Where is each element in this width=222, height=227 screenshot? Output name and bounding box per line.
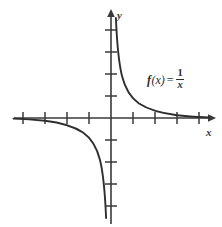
fraction-denominator: x — [176, 80, 183, 91]
y-axis-arrowhead-icon — [107, 9, 115, 17]
function-equation-label: f(x)= 1 x — [147, 68, 184, 91]
fraction-numerator: 1 — [176, 68, 183, 79]
function-name: f — [147, 74, 151, 86]
function-argument: (x) — [152, 74, 165, 86]
fraction-one-over-x: 1 x — [176, 68, 184, 91]
equals-sign: = — [167, 74, 174, 86]
plot-canvas — [0, 0, 222, 227]
curve-branch-negative — [14, 119, 107, 218]
y-axis-name-label: y — [117, 10, 122, 21]
function-graph-figure: y x f(x)= 1 x — [0, 0, 222, 227]
y-axis — [107, 9, 115, 224]
x-axis-name-label: x — [206, 127, 212, 138]
